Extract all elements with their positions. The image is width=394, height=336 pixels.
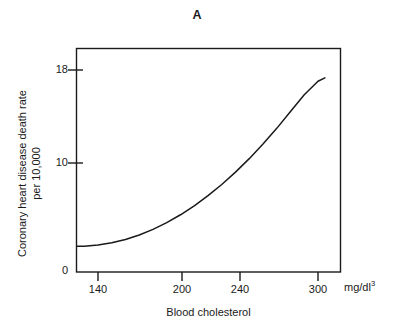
x-axis-unit-superscript: 3 — [371, 279, 375, 288]
x-axis-unit-text: mg/dl — [344, 281, 371, 293]
y-axis-label-line2: per 10,000 — [29, 59, 43, 289]
y-axis-label-line1: Coronary heart disease death rate — [16, 90, 28, 257]
ytick-label-10: 10 — [46, 156, 68, 168]
ytick-label-0: 0 — [46, 264, 68, 276]
xtick-label-200: 200 — [162, 283, 202, 295]
x-axis-unit-label: mg/dl3 — [344, 281, 375, 293]
data-curve — [77, 78, 325, 246]
chart-figure: A Coronary heart disease death rate per … — [0, 0, 394, 336]
x-axis-label: Blood cholesterol — [76, 306, 341, 318]
xtick-label-300: 300 — [298, 283, 338, 295]
xtick-label-240: 240 — [220, 283, 260, 295]
ytick-label-18: 18 — [46, 63, 68, 75]
plot-frame — [77, 49, 341, 273]
y-axis-label: Coronary heart disease death rate per 10… — [16, 59, 43, 289]
xtick-label-140: 140 — [78, 283, 118, 295]
